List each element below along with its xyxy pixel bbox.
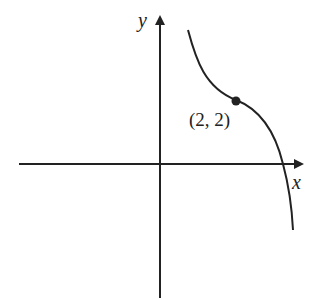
point-label: (2, 2) [189,109,230,131]
function-curve [188,30,293,230]
inflection-point [232,97,241,106]
y-axis-label: y [136,9,147,32]
x-axis-label: x [291,171,301,193]
graph-canvas: y x (2, 2) [0,0,320,300]
